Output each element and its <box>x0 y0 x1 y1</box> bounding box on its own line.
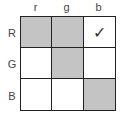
cell-R-r <box>21 17 52 48</box>
cell-G-r <box>21 48 52 79</box>
cell-R-b-checkmark-icon: ✓ <box>84 17 115 48</box>
matrix-grid: ✓ <box>20 16 116 111</box>
cell-B-g <box>52 79 83 110</box>
cell-B-r <box>21 79 52 110</box>
column-label-g: g <box>51 1 82 13</box>
cell-B-b <box>84 79 115 110</box>
column-label-r: r <box>20 1 51 13</box>
cell-G-b <box>84 48 115 79</box>
cell-R-g <box>52 17 83 48</box>
row-label-G: G <box>6 58 18 70</box>
column-label-b: b <box>83 1 114 13</box>
row-label-R: R <box>6 27 18 39</box>
row-label-B: B <box>6 90 18 102</box>
cell-G-g <box>52 48 83 79</box>
